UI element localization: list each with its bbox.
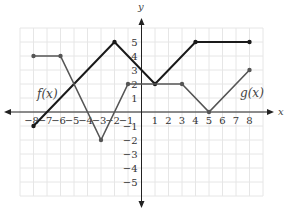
x-tick-label: 1 — [152, 115, 158, 126]
data-point — [193, 40, 197, 44]
g-function-label: g(x) — [240, 86, 264, 100]
y-axis-label: y — [137, 1, 144, 12]
y-tick-label: −1 — [123, 121, 138, 132]
data-point — [247, 40, 251, 44]
data-point — [126, 82, 130, 86]
data-point — [180, 82, 184, 86]
x-tick-label: 7 — [233, 115, 239, 126]
y-tick-label: −4 — [123, 163, 138, 174]
x-tick-label: 5 — [206, 115, 212, 126]
x-axis-label: x — [278, 106, 284, 117]
y-tick-label: −2 — [123, 135, 138, 146]
data-point — [207, 110, 211, 114]
x-tick-label: 2 — [165, 115, 171, 126]
y-tick-label: 5 — [131, 37, 137, 48]
axes — [4, 18, 274, 208]
x-tick-label: 8 — [246, 115, 252, 126]
x-tick-label: 3 — [179, 115, 185, 126]
x-axis-arrow-left-icon — [4, 109, 11, 115]
y-axis-arrow-up-icon — [139, 18, 145, 25]
y-tick-label: 3 — [131, 65, 137, 76]
f-function-label: f(x) — [36, 87, 58, 101]
y-axis-arrow-down-icon — [139, 201, 145, 208]
x-tick-label: 4 — [192, 115, 198, 126]
data-point — [112, 40, 116, 44]
data-point — [247, 68, 251, 72]
data-point — [99, 138, 103, 142]
y-tick-label: −5 — [123, 177, 138, 188]
x-tick-label: 6 — [219, 115, 225, 126]
data-point — [31, 124, 35, 128]
y-tick-label: 1 — [131, 93, 137, 104]
function-graph: −8−7−6−5−4−3−2−112345678−5−4−3−2−112345 … — [0, 0, 286, 211]
data-point — [58, 54, 62, 58]
y-tick-label: −3 — [123, 149, 138, 160]
x-axis-arrow-right-icon — [267, 109, 274, 115]
data-point — [31, 54, 35, 58]
